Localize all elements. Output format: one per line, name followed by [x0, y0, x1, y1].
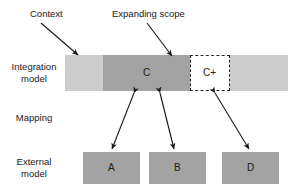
callout-label-context: Context: [30, 8, 63, 19]
mapping-arrow-c-a: [112, 93, 134, 149]
row-label-external-line2: model: [21, 168, 47, 179]
row-label-external-line1: External: [17, 156, 52, 167]
node-label-d: D: [247, 163, 254, 173]
row-label-external-model: External model: [4, 156, 64, 180]
row-label-mapping: Mapping: [4, 112, 64, 124]
callout-label-expanding-scope: Expanding scope: [112, 8, 185, 19]
context-callout-arrow: [41, 23, 78, 55]
row-label-mapping-line1: Mapping: [16, 112, 52, 123]
node-label-c: C: [143, 68, 150, 78]
node-label-cplus: C+: [203, 68, 216, 78]
row-label-integration-line1: Integration: [12, 61, 57, 72]
node-label-b: B: [174, 163, 181, 173]
diagram-canvas: Context Expanding scope Integration mode…: [0, 0, 293, 189]
mapping-arrow-cplus-d: [215, 93, 249, 149]
mapping-arrow-c-b: [160, 93, 174, 149]
row-label-integration-line2: model: [21, 73, 47, 84]
row-label-integration-model: Integration model: [4, 61, 64, 85]
node-label-a: A: [108, 163, 115, 173]
expanding-scope-callout-arrow: [147, 23, 172, 56]
